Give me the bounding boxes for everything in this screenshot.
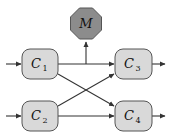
node-c1: C 1 [22, 49, 58, 79]
node-m: M [71, 8, 102, 39]
node-c1-label: C [31, 56, 41, 71]
node-c3-subscript: 3 [135, 64, 140, 73]
node-c4-label: C [124, 108, 134, 123]
node-m-label: M [78, 16, 93, 31]
node-c2: C 2 [22, 101, 58, 131]
diagram-canvas: M C 1 C 2 C 3 C 4 [0, 0, 173, 136]
node-c4-subscript: 4 [135, 116, 140, 125]
node-c3-label: C [124, 56, 134, 71]
node-c4: C 4 [115, 101, 152, 131]
node-c2-subscript: 2 [42, 116, 47, 125]
node-c2-label: C [31, 108, 41, 123]
node-c1-subscript: 1 [42, 64, 47, 73]
node-c3: C 3 [115, 49, 152, 79]
